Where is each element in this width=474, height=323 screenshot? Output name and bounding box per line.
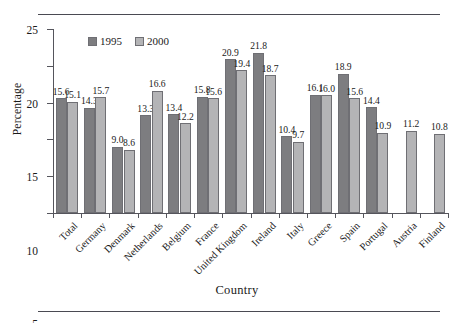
bar-value-label-1995: 21.8 bbox=[250, 40, 267, 51]
bar-value-label-1995: 9.0 bbox=[112, 134, 124, 145]
bar-group: 15.615.1 bbox=[56, 29, 79, 213]
bottom-divider-rule bbox=[38, 311, 440, 312]
bar-group: 9.08.6 bbox=[112, 29, 135, 213]
legend-item-1995: 1995 bbox=[88, 35, 122, 47]
dark-gray-swatch-icon bbox=[88, 37, 97, 46]
chart-legend: 1995 2000 bbox=[88, 35, 169, 47]
bar-group: 21.818.7 bbox=[253, 29, 276, 213]
x-tick bbox=[53, 213, 54, 218]
bar-value-label-2000: 18.7 bbox=[262, 63, 279, 74]
x-axis-title: Country bbox=[0, 283, 474, 298]
bar-2000 bbox=[321, 95, 332, 213]
bar-value-label-2000: 19.4 bbox=[233, 58, 250, 69]
bar-1995 bbox=[197, 97, 208, 213]
y-tick: 15 bbox=[47, 103, 53, 104]
bar-group: 11.2 bbox=[394, 29, 417, 213]
y-tick-label: 25 bbox=[27, 24, 39, 36]
bar-group: 10.8 bbox=[422, 29, 445, 213]
bar-value-label-2000: 9.7 bbox=[292, 129, 304, 140]
bar-value-label-2000: 15.6 bbox=[346, 86, 363, 97]
y-tick-label: 20 bbox=[27, 98, 39, 110]
bar-value-label-2000: 8.6 bbox=[123, 137, 135, 148]
y-axis-title: Percentage bbox=[11, 61, 23, 157]
y-tick: 10 bbox=[47, 139, 53, 140]
bar-group: 15.815.6 bbox=[197, 29, 220, 213]
light-gray-swatch-icon bbox=[135, 37, 144, 46]
bar-1995 bbox=[56, 98, 67, 213]
bar-2000 bbox=[95, 97, 106, 213]
bar-value-label-2000: 16.6 bbox=[149, 78, 166, 89]
bar-value-label-2000: 15.6 bbox=[205, 86, 222, 97]
y-tick-label: 5 bbox=[32, 318, 38, 323]
bar-1995 bbox=[225, 59, 236, 213]
bar-2000 bbox=[377, 133, 388, 213]
bar-value-label-2000: 16.0 bbox=[318, 83, 335, 94]
bar-value-label-1995: 20.9 bbox=[222, 47, 239, 58]
bar-1995 bbox=[310, 95, 321, 213]
bar-group: 14.410.9 bbox=[366, 29, 389, 213]
bar-value-label-2000: 10.9 bbox=[375, 120, 392, 131]
y-axis-line bbox=[53, 29, 54, 213]
bar-value-label-2000: 10.8 bbox=[431, 121, 448, 132]
bar-chart-figure: Percentage 0510152025 15.615.114.315.79.… bbox=[0, 0, 474, 323]
bar-1995 bbox=[253, 53, 264, 213]
bar-value-label-2000: 15.1 bbox=[64, 89, 81, 100]
legend-item-2000: 2000 bbox=[135, 35, 169, 47]
top-divider-rule bbox=[38, 14, 440, 15]
bar-value-label-2000: 15.7 bbox=[92, 85, 109, 96]
y-tick-label: 15 bbox=[27, 171, 39, 183]
bar-value-label-2000: 11.2 bbox=[403, 118, 419, 129]
bar-group: 13.316.6 bbox=[140, 29, 163, 213]
plot-area: 0510152025 15.615.114.315.79.08.613.316.… bbox=[53, 29, 448, 213]
bar-group: 18.915.6 bbox=[338, 29, 361, 213]
bar-value-label-1995: 14.4 bbox=[363, 95, 380, 106]
bar-2000 bbox=[349, 98, 360, 213]
bar-group: 20.919.4 bbox=[225, 29, 248, 213]
bar-1995 bbox=[84, 108, 95, 213]
bar-group: 16.116.0 bbox=[310, 29, 333, 213]
bar-value-label-1995: 18.9 bbox=[335, 61, 352, 72]
legend-label-1995: 1995 bbox=[100, 35, 122, 47]
bar-2000 bbox=[236, 70, 247, 213]
y-tick: 25 bbox=[47, 29, 53, 30]
y-tick: 5 bbox=[47, 176, 53, 177]
bar-group: 13.412.2 bbox=[168, 29, 191, 213]
y-tick-label: 10 bbox=[27, 245, 39, 257]
y-tick: 20 bbox=[47, 66, 53, 67]
bar-2000 bbox=[67, 102, 78, 213]
legend-label-2000: 2000 bbox=[147, 35, 169, 47]
bar-group: 14.315.7 bbox=[84, 29, 107, 213]
bar-value-label-2000: 12.2 bbox=[177, 111, 194, 122]
